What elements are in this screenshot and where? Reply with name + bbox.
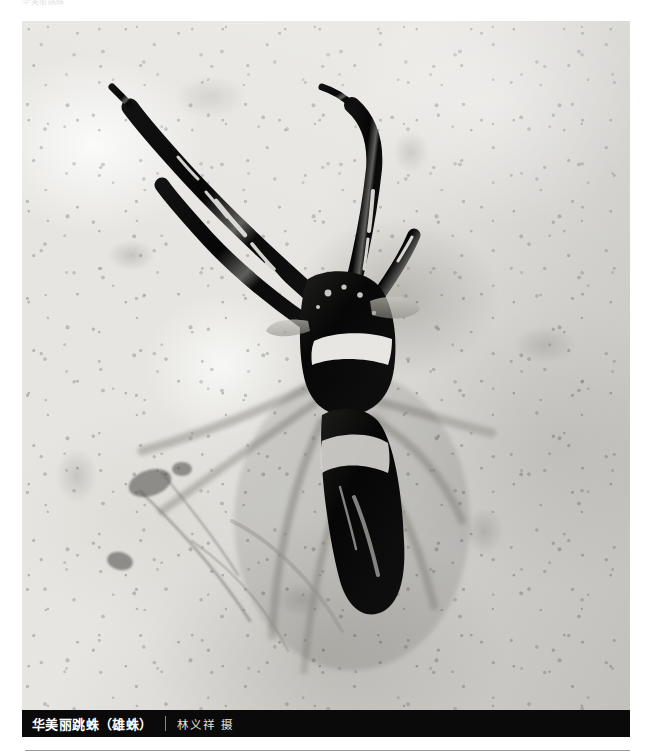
spider-figure xyxy=(22,21,630,710)
photo-caption-bar: 华美丽跳蛛（雄蛛） 林义祥 摄 xyxy=(22,710,630,737)
caption-photographer-credit: 林义祥 摄 xyxy=(177,716,235,732)
caption-divider xyxy=(165,716,166,731)
running-header: 华美丽跳蛛 xyxy=(22,0,162,6)
spider-photograph xyxy=(22,21,630,710)
footer-rule xyxy=(25,750,630,751)
caption-species-name: 华美丽跳蛛（雄蛛） xyxy=(32,714,153,733)
